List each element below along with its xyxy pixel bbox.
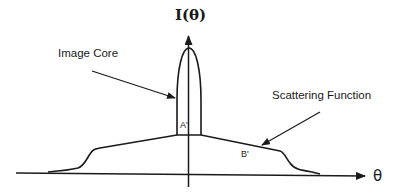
image-core-pointer-arrow	[92, 71, 175, 98]
diagram-canvas: I(θ) θ Image Core Scattering Function A'…	[0, 0, 399, 196]
y-axis-label: I(θ)	[175, 6, 206, 24]
scattering-function-curve	[48, 135, 320, 174]
scattering-function-label: Scattering Function	[272, 89, 371, 101]
region-b-label: B'	[241, 149, 249, 159]
scattering-function-pointer-arrow	[262, 112, 320, 145]
x-axis-label: θ	[373, 167, 382, 185]
x-axis	[16, 173, 365, 176]
image-core-label: Image Core	[58, 47, 118, 59]
region-a-label: A'	[180, 120, 188, 130]
